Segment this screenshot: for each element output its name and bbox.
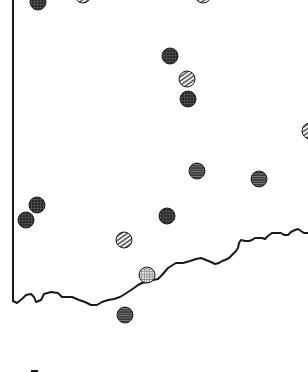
- coastline: [13, 229, 308, 305]
- marker-dark-fine[interactable]: [189, 163, 205, 179]
- marker-dark-grid[interactable]: [159, 208, 175, 224]
- marker-dark-fine[interactable]: [117, 307, 133, 323]
- map-canvas: [0, 0, 308, 372]
- marker-dark-grid[interactable]: [180, 91, 196, 107]
- marker-dark-grid[interactable]: [18, 212, 34, 228]
- marker-dark-fine[interactable]: [251, 171, 267, 187]
- marker-dark-grid[interactable]: [29, 197, 45, 213]
- marker-light-hatch[interactable]: [302, 123, 308, 139]
- marker-light-hatch[interactable]: [116, 232, 132, 248]
- marker-light-hatch[interactable]: [179, 71, 195, 87]
- marker-dark-grid[interactable]: [30, 0, 46, 10]
- state-outline: [13, 0, 308, 305]
- marker-light-grid[interactable]: [139, 267, 155, 283]
- marker-dark-grid[interactable]: [162, 48, 178, 64]
- marker-light-hatch[interactable]: [75, 0, 91, 3]
- marker-light-hatch[interactable]: [195, 0, 211, 3]
